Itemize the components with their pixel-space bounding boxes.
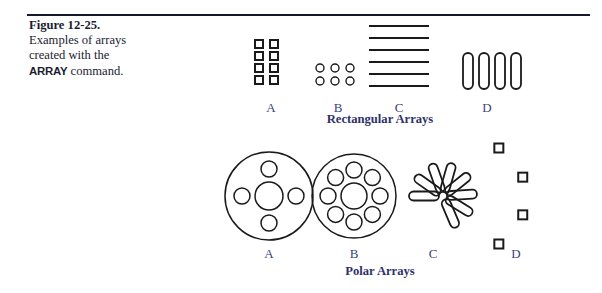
array-circle [316, 64, 324, 72]
hub-center-hole [341, 183, 367, 209]
array-circle [331, 77, 339, 85]
array-circle [346, 64, 354, 72]
hub-outer-circle [225, 152, 313, 240]
item-label-polar-d: D [501, 246, 531, 262]
arc-square [518, 173, 527, 182]
array-circle [331, 64, 339, 72]
array-slot [511, 53, 521, 89]
hub-outer-circle [312, 154, 396, 238]
array-square [270, 40, 278, 48]
hub-hole [372, 188, 388, 204]
array-circle [316, 77, 324, 85]
hub-hole [320, 188, 336, 204]
array-item-polar-a [225, 152, 313, 240]
hub-hole [261, 161, 277, 177]
array-square [255, 76, 263, 84]
hub-hole [328, 170, 344, 186]
group-title-polar: Polar Arrays [250, 264, 510, 279]
radial-slot [440, 162, 457, 193]
group-title-rectangular: Rectangular Arrays [250, 112, 510, 127]
array-item-polar-c [409, 162, 477, 229]
hub-hole [346, 162, 362, 178]
item-label-polar-b: B [339, 246, 369, 262]
hub-hole [346, 214, 362, 230]
array-item-rect-a [255, 40, 278, 84]
array-square [270, 76, 278, 84]
array-item-rect-b [316, 64, 354, 85]
hub-hole [364, 170, 380, 186]
array-slot [479, 53, 489, 89]
array-item-rect-d [463, 53, 521, 89]
array-square [255, 40, 263, 48]
hub-hole [261, 215, 277, 231]
hub-hole [328, 206, 344, 222]
item-label-polar-c: C [418, 246, 448, 262]
arc-square [518, 210, 527, 219]
array-item-rect-c [369, 26, 429, 86]
array-square [255, 64, 263, 72]
hub-hole [234, 188, 250, 204]
arc-square [494, 143, 503, 152]
array-item-polar-d [494, 143, 527, 248]
hub-hole [364, 206, 380, 222]
hub-center-hole [255, 182, 283, 210]
array-square [255, 52, 263, 60]
radial-slot [444, 194, 474, 217]
array-slot [463, 53, 473, 89]
array-square [270, 64, 278, 72]
array-circle [346, 77, 354, 85]
array-slot [495, 53, 505, 89]
item-label-polar-a: A [254, 246, 284, 262]
figure-page: Figure 12-25. Examples of arrays created… [0, 0, 602, 293]
radial-slot [440, 198, 460, 229]
array-square [270, 52, 278, 60]
array-item-polar-b [312, 154, 396, 238]
hub-hole [288, 188, 304, 204]
